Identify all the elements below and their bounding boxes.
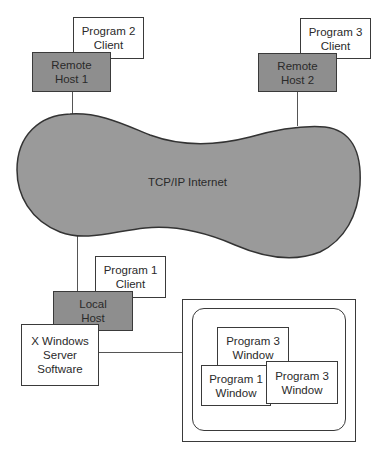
remote-host-1-line2: Host 1 <box>55 72 88 86</box>
program-3-window-back-line1: Program 3 <box>226 334 280 348</box>
program-1-window-line1: Program 1 <box>209 372 263 386</box>
x-windows-server-line3: Software <box>37 362 82 376</box>
remote-host-1-box: Remote Host 1 <box>32 52 111 92</box>
program-1-window-line2: Window <box>216 386 257 400</box>
local-host-line2: Host <box>81 311 105 325</box>
program-2-client-line1: Program 2 <box>82 24 136 38</box>
remote-host-2-line2: Host 2 <box>281 73 314 87</box>
program-3-window-front-line1: Program 3 <box>275 369 329 383</box>
x-windows-server-line1: X Windows <box>31 334 89 348</box>
program-1-client-line1: Program 1 <box>104 263 158 277</box>
local-host-line1: Local <box>79 297 107 311</box>
program-3-client-line2: Client <box>321 39 350 53</box>
program-1-window: Program 1 Window <box>201 365 271 406</box>
program-3-window-front-line2: Window <box>282 383 323 397</box>
x-windows-server-line2: Server <box>43 348 77 362</box>
program-1-client-line2: Client <box>116 277 145 291</box>
program-3-window-front: Program 3 Window <box>266 361 338 404</box>
remote-host-2-line1: Remote <box>277 59 317 73</box>
internet-label: TCP/IP Internet <box>148 176 227 188</box>
remote-host-1-line1: Remote <box>51 58 91 72</box>
remote-host-2-box: Remote Host 2 <box>258 53 337 92</box>
program-2-client-line2: Client <box>94 38 123 52</box>
program-3-client-line1: Program 3 <box>309 25 363 39</box>
x-windows-server-box: X Windows Server Software <box>21 324 99 386</box>
program-3-window-back-line2: Window <box>233 348 274 362</box>
